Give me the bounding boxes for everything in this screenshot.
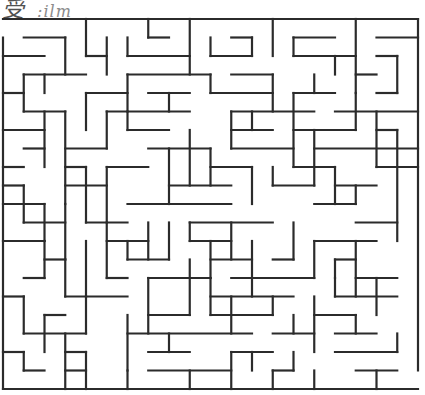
maze-grid[interactable] [0,0,425,395]
